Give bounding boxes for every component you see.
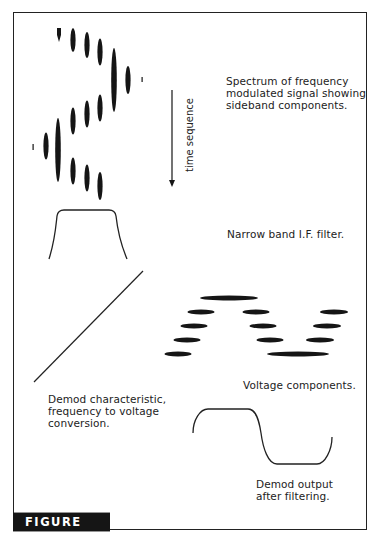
spectrum-caption-line: Spectrum of frequency xyxy=(226,75,366,87)
time-arrow xyxy=(169,90,175,187)
figure-label: FIGURE 7.5 xyxy=(13,513,110,532)
demod-output-caption-line: Demod output xyxy=(256,478,333,490)
voltage-component-bars xyxy=(165,296,349,357)
demod-output-caption-line: after filtering. xyxy=(256,490,333,502)
fm-spectrum-bars xyxy=(33,28,143,200)
demod-characteristic-caption: Demod characteristic, frequency to volta… xyxy=(48,393,166,429)
spectrum-caption: Spectrum of frequency modulated signal s… xyxy=(226,75,366,111)
spectrum-caption-line: sideband components. xyxy=(226,99,366,111)
demod-char-caption-line: Demod characteristic, xyxy=(48,393,166,405)
time-sequence-label: time sequence xyxy=(184,98,195,172)
demod-char-caption-line: conversion. xyxy=(48,417,166,429)
voltage-caption: Voltage components. xyxy=(243,379,356,391)
spectrum-caption-line: modulated signal showing xyxy=(226,87,366,99)
demod-output-caption: Demod output after filtering. xyxy=(256,478,333,502)
demod-characteristic-line xyxy=(34,271,143,382)
filter-caption: Narrow band I.F. filter. xyxy=(227,228,344,240)
demod-output-curve xyxy=(193,409,332,464)
if-filter-curve xyxy=(49,210,127,259)
demod-char-caption-line: frequency to voltage xyxy=(48,405,166,417)
